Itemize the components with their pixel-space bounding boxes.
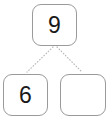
connector-parent-to-left-child bbox=[27, 47, 53, 72]
parent-node-value: 9 bbox=[48, 14, 61, 37]
left-child-node-box[interactable]: 6 bbox=[3, 74, 48, 116]
parent-node-box[interactable]: 9 bbox=[32, 4, 77, 46]
number-bond-diagram: 9 6 bbox=[0, 0, 110, 123]
right-child-node-box[interactable] bbox=[60, 74, 106, 116]
left-child-node-value: 6 bbox=[19, 84, 32, 107]
connector-parent-to-right-child bbox=[57, 47, 82, 72]
